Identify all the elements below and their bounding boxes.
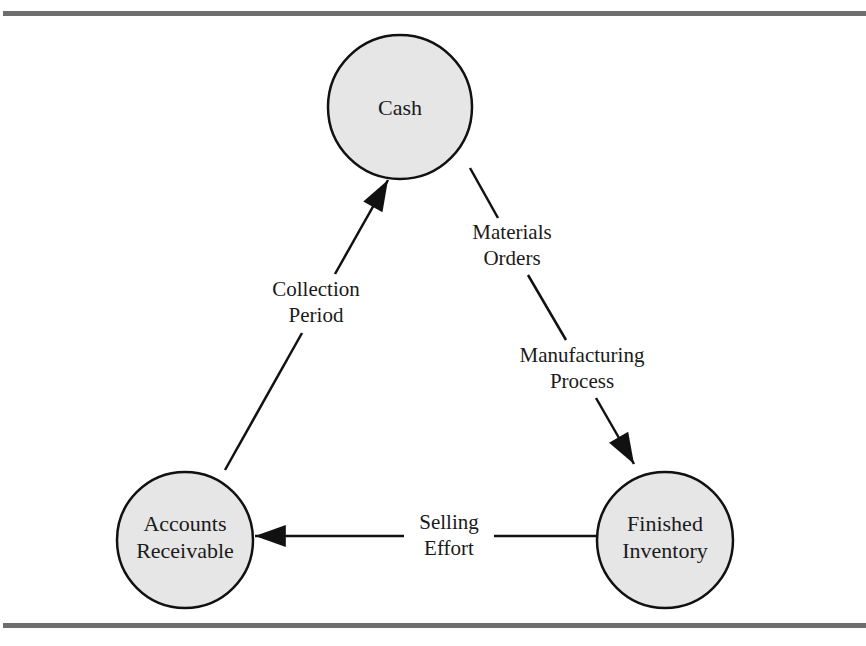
edge-label-line: Period xyxy=(272,302,360,328)
edge-label-line: Materials xyxy=(472,219,551,245)
node-label-finished-inventory: Finished Inventory xyxy=(622,510,708,564)
node-label-accounts-receivable: Accounts Receivable xyxy=(136,510,234,564)
edge-label-manufacturing-process: Manufacturing Process xyxy=(516,342,649,394)
edge-label-line: Process xyxy=(520,368,645,394)
edge-label-collection-period: Collection Period xyxy=(268,276,364,328)
node-label-cash: Cash xyxy=(378,94,422,121)
edge-label-materials-orders: Materials Orders xyxy=(468,219,555,271)
edge-label-line: Selling xyxy=(419,509,479,535)
edge-label-line: Manufacturing xyxy=(520,342,645,368)
node-label-line: Inventory xyxy=(622,537,708,564)
edge-label-selling-effort: Selling Effort xyxy=(415,509,483,561)
node-label-line: Finished xyxy=(622,510,708,537)
edge-label-line: Orders xyxy=(472,245,551,271)
edge-label-line: Effort xyxy=(419,535,479,561)
edge-cash-to-inventory xyxy=(470,168,634,464)
node-label-line: Accounts xyxy=(136,510,234,537)
node-label-line: Cash xyxy=(378,94,422,121)
node-label-line: Receivable xyxy=(136,537,234,564)
edge-label-line: Collection xyxy=(272,276,360,302)
